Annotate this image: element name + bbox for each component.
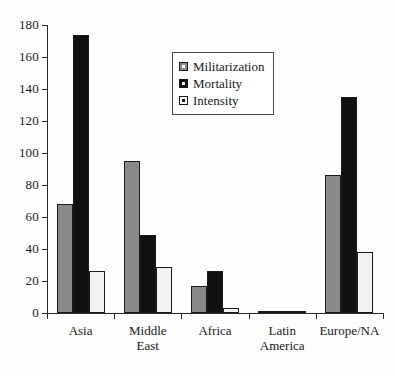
bar-militarization-1 <box>124 161 140 313</box>
y-axis-tick-label: 0 <box>5 306 39 319</box>
x-axis-tick <box>316 313 317 319</box>
x-axis-line <box>47 313 383 314</box>
bar-mortality-2 <box>207 271 223 313</box>
y-axis-tick-label: 60 <box>5 210 39 223</box>
bar-mortality-4 <box>341 97 357 313</box>
legend-swatch-mortality-icon <box>179 79 188 88</box>
bar-militarization-2 <box>191 286 207 313</box>
legend-label: Mortality <box>193 77 242 90</box>
bar-intensity-4 <box>357 252 373 313</box>
x-axis-label-4: Europe/NA <box>316 323 383 338</box>
x-axis-tick <box>181 313 182 319</box>
x-axis-tick <box>47 313 48 319</box>
legend-swatch-militarization-icon <box>179 62 188 71</box>
x-axis-label-2: Africa <box>181 323 248 338</box>
y-axis-tick-label: 80 <box>5 178 39 191</box>
legend-item-militarization: Militarization <box>179 58 264 75</box>
legend-swatch-intensity-icon <box>179 96 188 105</box>
x-axis-tick <box>383 313 384 319</box>
y-axis-tick-label: 120 <box>5 114 39 127</box>
bar-intensity-0 <box>89 271 105 313</box>
bar-intensity-3 <box>290 311 306 313</box>
bar-militarization-4 <box>325 175 341 313</box>
bar-intensity-1 <box>156 267 172 313</box>
bar-chart: 020406080100120140160180 AsiaMiddle East… <box>0 0 395 376</box>
legend-label: Intensity <box>193 94 239 107</box>
x-axis-label-0: Asia <box>47 323 114 338</box>
y-axis-tick-label: 140 <box>5 82 39 95</box>
legend-item-mortality: Mortality <box>179 75 264 92</box>
x-axis-tick <box>114 313 115 319</box>
y-axis-tick-label: 40 <box>5 242 39 255</box>
bar-mortality-0 <box>73 35 89 313</box>
legend-label: Militarization <box>193 60 264 73</box>
y-axis-tick-label: 180 <box>5 18 39 31</box>
x-axis-label-1: Middle East <box>114 323 181 353</box>
legend-item-intensity: Intensity <box>179 92 264 109</box>
x-axis-label-3: Latin America <box>249 323 316 353</box>
y-axis-tick-label: 20 <box>5 274 39 287</box>
legend: MilitarizationMortalityIntensity <box>172 52 274 115</box>
bar-mortality-1 <box>140 235 156 313</box>
y-axis-tick-label: 100 <box>5 146 39 159</box>
y-axis-tick-label: 160 <box>5 50 39 63</box>
bar-militarization-3 <box>258 311 274 313</box>
bar-militarization-0 <box>57 204 73 313</box>
bar-mortality-3 <box>274 311 290 313</box>
bar-intensity-2 <box>223 308 239 313</box>
x-axis-tick <box>249 313 250 319</box>
